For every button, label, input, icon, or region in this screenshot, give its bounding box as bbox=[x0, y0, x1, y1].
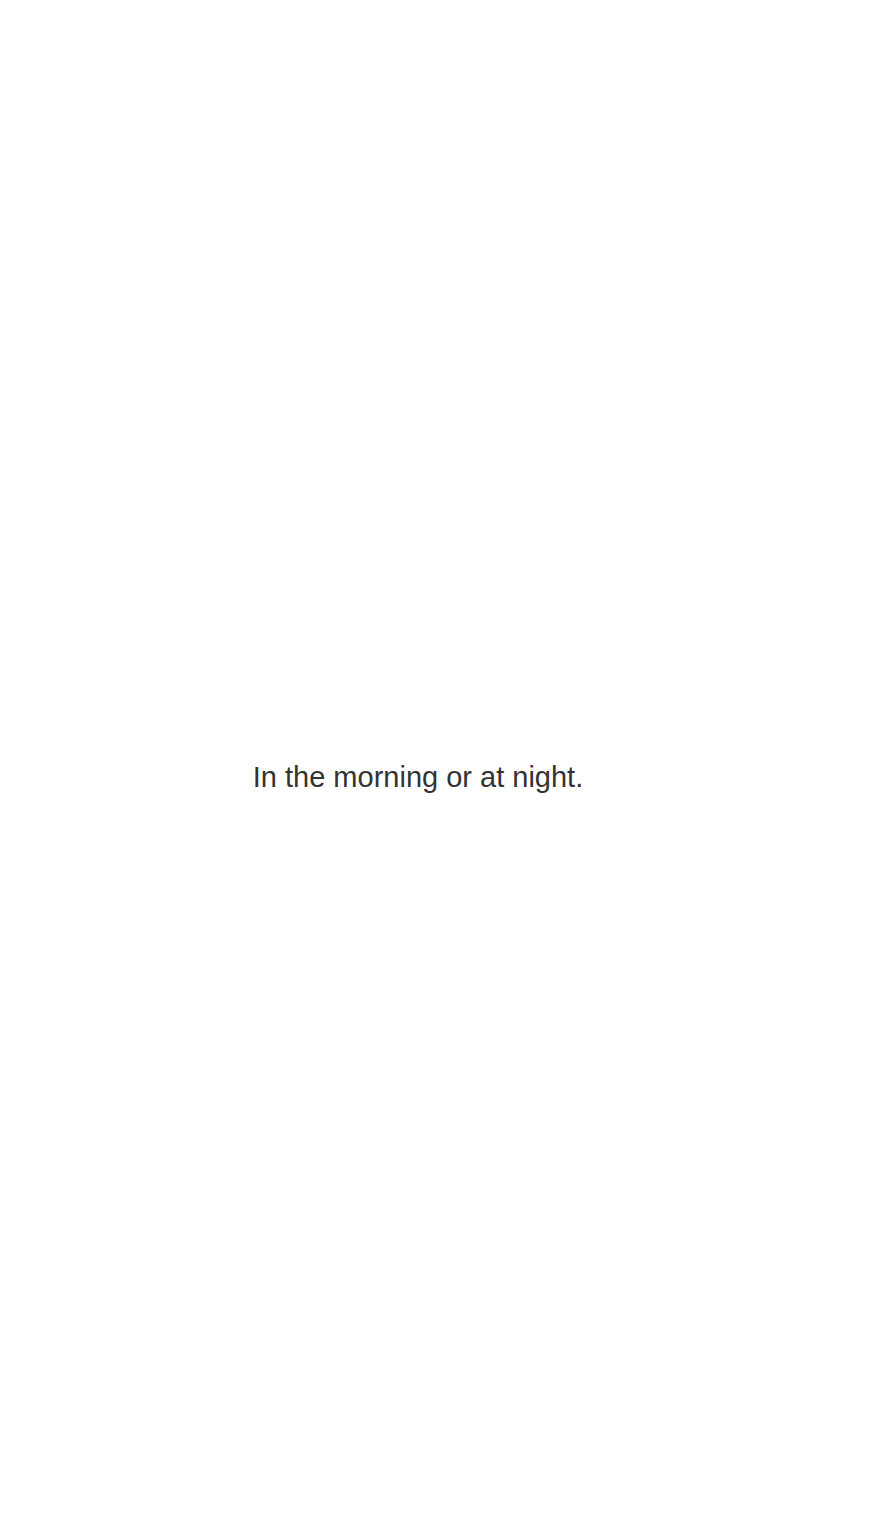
caption-text: In the morning or at night. bbox=[0, 758, 836, 796]
